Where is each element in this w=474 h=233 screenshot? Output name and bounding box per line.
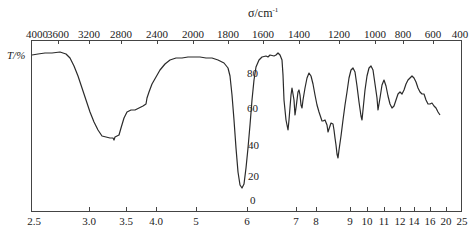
bottom-ticks (90, 207, 447, 211)
spectrum-line (32, 52, 440, 188)
ir-spectrum-plot (0, 0, 474, 233)
